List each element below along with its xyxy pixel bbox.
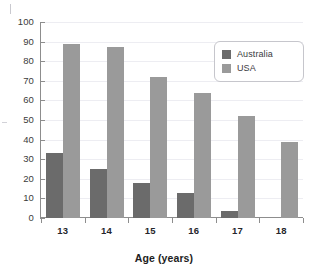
x-axis-tick-label-13: 13 [57, 226, 68, 236]
x-axis-tick-mark [41, 218, 42, 223]
y-axis-tick-label: 20 [4, 174, 34, 184]
bar-usa-16 [194, 93, 211, 218]
bar-australia-17 [221, 211, 238, 218]
x-axis-title: Age (years) [0, 252, 314, 264]
legend-swatch-icon-australia [222, 50, 231, 59]
bar-australia-14 [90, 169, 107, 218]
bar-chart: 0102030405060708090100 131415161718 Age … [0, 0, 314, 278]
x-axis-tick-label-17: 17 [232, 226, 243, 236]
legend-item-usa[interactable]: USA [222, 61, 296, 75]
bar-usa-17 [238, 116, 255, 218]
x-axis-tick-mark [172, 218, 173, 223]
bar-usa-13 [63, 44, 80, 218]
y-axis-tick-label: 40 [4, 135, 34, 145]
y-axis-tick-label: 30 [4, 154, 34, 164]
x-axis-tick-label-16: 16 [188, 226, 199, 236]
x-axis-tick-mark [85, 218, 86, 223]
y-axis-tick-label: 90 [4, 37, 34, 47]
y-axis-tick-label: 70 [4, 76, 34, 86]
y-axis-tick-label: 0 [4, 213, 34, 223]
x-axis-tick-mark [259, 218, 260, 223]
y-axis: 0102030405060708090100 [0, 0, 34, 278]
y-axis-tick-label: 100 [4, 17, 34, 27]
bar-usa-14 [107, 47, 124, 218]
x-axis-tick-label-15: 15 [145, 226, 156, 236]
x-axis-tick-mark [216, 218, 217, 223]
y-axis-tick-label: 80 [4, 56, 34, 66]
y-axis-tick-label: 10 [4, 194, 34, 204]
y-axis-tick-label: 60 [4, 96, 34, 106]
bar-australia-13 [46, 153, 63, 218]
x-axis-title-label: Age (years) [135, 252, 193, 264]
x-axis-tick-mark [303, 218, 304, 223]
legend-swatch-icon-usa [222, 64, 231, 73]
x-axis-tick-mark [128, 218, 129, 223]
chart-legend: Australia USA [214, 41, 304, 82]
y-axis-tick-label: 50 [4, 115, 34, 125]
legend-item-australia[interactable]: Australia [222, 47, 296, 61]
bar-australia-15 [133, 183, 150, 218]
x-axis-tick-label-14: 14 [101, 226, 112, 236]
legend-label-usa: USA [237, 64, 256, 73]
legend-label-australia: Australia [237, 50, 273, 59]
bar-usa-18 [281, 142, 298, 218]
bar-usa-15 [150, 77, 167, 218]
x-axis-tick-label-18: 18 [276, 226, 287, 236]
bar-australia-16 [177, 193, 194, 218]
